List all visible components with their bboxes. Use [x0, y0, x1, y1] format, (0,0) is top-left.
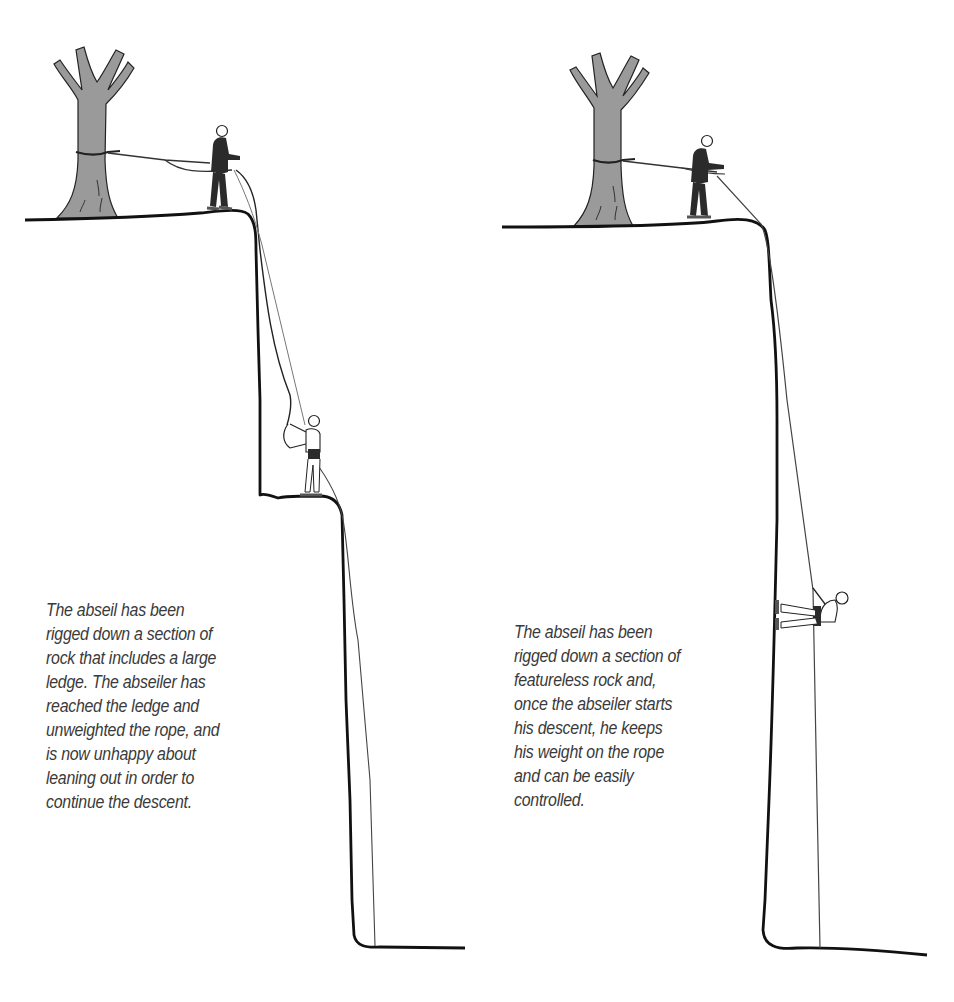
caption-ledge-scenario: The abseil has been rigged down a sectio…: [46, 598, 219, 814]
tree-icon: [570, 53, 649, 226]
ledge-scene-illustration: [0, 0, 477, 1002]
belayer-figure: [687, 136, 724, 218]
caption-line: rock that includes a large: [46, 646, 219, 670]
caption-line: once the abseiler starts: [514, 692, 680, 716]
caption-line: his descent, he keeps: [514, 716, 680, 740]
panel-featureless-scenario: The abseil has been rigged down a sectio…: [477, 0, 954, 1002]
helmet-icon: [836, 592, 848, 604]
caption-featureless-scenario: The abseil has been rigged down a sectio…: [514, 620, 680, 812]
anchor-rope: [108, 153, 210, 163]
cliff-edge: [25, 210, 465, 948]
caption-line: rigged down a section of: [514, 644, 680, 668]
caption-line: controlled.: [514, 788, 680, 812]
caption-line: his weight on the rope: [514, 740, 680, 764]
caption-line: unweighted the rope, and: [46, 718, 219, 742]
belayer-figure: [207, 126, 240, 210]
panel-ledge-scenario: The abseil has been rigged down a sectio…: [0, 0, 477, 1002]
cliff-edge: [502, 219, 927, 955]
tree-icon: [54, 47, 134, 218]
caption-line: featureless rock and,: [514, 668, 680, 692]
abseil-rope-taut: [234, 170, 305, 425]
caption-line: continue the descent.: [46, 790, 219, 814]
caption-line: is now unhappy about: [46, 742, 219, 766]
caption-line: The abseil has been: [514, 620, 680, 644]
caption-line: ledge. The abseiler has: [46, 670, 219, 694]
helmet-icon: [217, 126, 228, 137]
featureless-scene-illustration: [477, 0, 954, 1002]
caption-line: and can be easily: [514, 764, 680, 788]
caption-line: leaning out in order to: [46, 766, 219, 790]
caption-line: rigged down a section of: [46, 622, 219, 646]
caption-line: The abseil has been: [46, 598, 219, 622]
caption-line: reached the ledge and: [46, 694, 219, 718]
helmet-icon: [309, 416, 320, 427]
abseil-rope-slack: [236, 170, 291, 425]
helmet-icon: [702, 136, 713, 147]
abseiler-on-ledge-figure: [284, 416, 322, 496]
